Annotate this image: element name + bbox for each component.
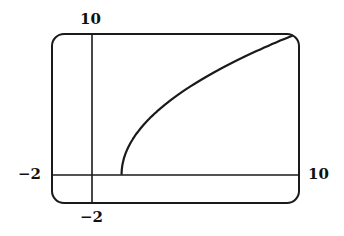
graph-window: [0, 0, 344, 236]
viewing-window-frame: [52, 34, 299, 203]
function-curve: [122, 35, 293, 174]
x-min-tick-label: −2: [80, 210, 103, 225]
y-max-label: 10: [80, 12, 101, 27]
y-min-label: −2: [18, 167, 41, 182]
x-max-label: 10: [308, 167, 329, 182]
